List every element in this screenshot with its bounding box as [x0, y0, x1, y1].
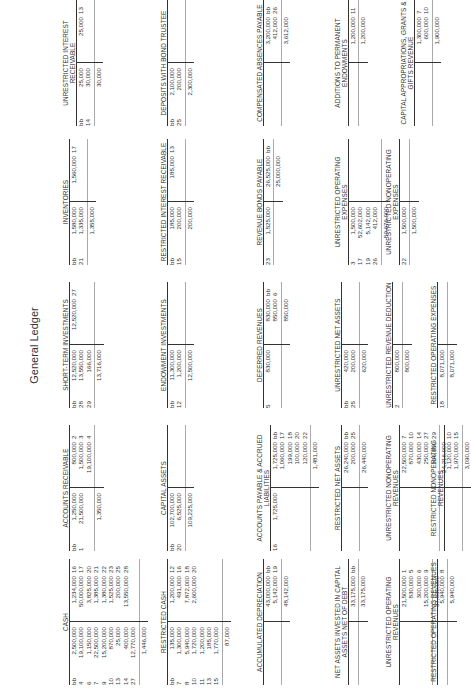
- account-name: CASH: [62, 559, 69, 685]
- spacer: [403, 396, 410, 408]
- spacer: [311, 539, 318, 551]
- debit-amount: [85, 488, 92, 539]
- entry-ref: 25: [349, 396, 356, 408]
- ledger-row: 1752,602,000: [356, 139, 363, 265]
- debit-amount: 19,100,000: [77, 622, 84, 673]
- t-account: RESTRICTED NET ASSETS26,240,000bb200,000…: [334, 425, 367, 551]
- ledger-row: 43,000,000bb: [264, 559, 271, 685]
- balance-row: 1,500,000: [409, 139, 417, 265]
- entry-ref: [356, 141, 363, 156]
- spacer: [463, 427, 470, 442]
- t-account: UNRESTRICTED NET ASSETSbb420,00025200,00…: [334, 282, 367, 408]
- account-name: RESTRICTED OPERATING EXPENSES: [430, 282, 437, 408]
- debit-balance: 1,350,000: [95, 488, 102, 539]
- account-name: ACCOUNTS RECEIVABLE: [62, 425, 69, 551]
- debit-amount: 52,602,000: [356, 202, 363, 253]
- entry-ref: [286, 539, 293, 551]
- ledger-row: bb102,700,000: [168, 425, 175, 551]
- debit-amount: 1,150,000: [85, 622, 92, 673]
- ledger-row: 2712,770,000: [129, 559, 136, 685]
- credit-amount: 15,200,000: [422, 576, 429, 622]
- entry-ref: 7: [175, 673, 182, 685]
- debit-amount: 185,000: [205, 622, 212, 673]
- entry-ref: 7: [400, 427, 407, 442]
- entry-ref: [129, 561, 136, 576]
- entry-ref: [271, 673, 278, 685]
- credit-amount: 50,000,000: [77, 576, 84, 622]
- debit-amount: 830,000: [264, 345, 271, 396]
- credit-amount: 1,234,000: [70, 576, 77, 622]
- entry-ref: 16: [271, 539, 278, 551]
- spacer: [186, 539, 193, 551]
- spacer: [186, 114, 193, 126]
- debit-amount: [422, 63, 429, 114]
- credit-amount: 800,000: [70, 442, 77, 488]
- entry-ref: [342, 284, 349, 299]
- spacer: [403, 284, 410, 299]
- debit-amount: 166,000: [85, 345, 92, 396]
- debit-amount: 12,520,000: [70, 345, 77, 396]
- ledger-row: 211,335,000: [77, 139, 84, 265]
- credit-amount: 13,550,000: [122, 576, 129, 622]
- credit-balance: [186, 156, 193, 202]
- credit-balance: [186, 299, 193, 345]
- entry-ref: 15: [175, 253, 182, 265]
- entry-ref: 10: [190, 673, 197, 685]
- entry-ref: [422, 673, 429, 685]
- spacer: [223, 673, 230, 685]
- t-account: DEPOSITS WITH BOND TRUSTEEbb2,100,000252…: [160, 0, 193, 126]
- credit-amount: 19,100,000: [85, 442, 92, 488]
- t-account: CASHbb2,500,0001,234,00016419,100,00050,…: [62, 559, 147, 685]
- entry-ref: [349, 114, 356, 126]
- balance-row: 48,142,000: [281, 559, 289, 685]
- entry-ref: 6: [415, 561, 422, 576]
- debit-amount: [342, 488, 349, 539]
- entry-ref: [400, 141, 407, 156]
- t-account: SHORT-TERM INVESTMENTSbb12,520,00012,520…: [62, 282, 103, 408]
- entry-ref: 6: [85, 673, 92, 685]
- spacer: [95, 114, 102, 126]
- entry-ref: 10: [107, 673, 114, 685]
- entry-ref: [168, 284, 175, 299]
- balance-row: 1,446,000: [139, 559, 147, 685]
- entry-ref: [349, 141, 356, 156]
- debit-amount: [271, 345, 278, 396]
- ledger-row: 1,120,00010: [445, 425, 452, 551]
- ledger-row: bb12,520,00012,520,00027: [70, 282, 77, 408]
- t-account-divider: [400, 201, 419, 202]
- debit-amount: 1,725,000: [271, 488, 278, 539]
- balance-row: 26,440,000: [359, 425, 367, 551]
- ledger-row: 3,200,000bb: [264, 0, 271, 126]
- ledger-row: bb135,0001,200,00012: [168, 559, 175, 685]
- debit-balance: [359, 622, 366, 673]
- debit-amount: 25,000: [77, 63, 84, 114]
- balance-row: 800,000: [402, 282, 410, 408]
- ledger-row: 121,200,000: [175, 282, 182, 408]
- entry-ref: 13: [205, 673, 212, 685]
- debit-amount: 11,300,000: [168, 345, 175, 396]
- t-account: DEFERRED REVENUES5830,000830,000bb850,00…: [256, 282, 289, 408]
- credit-balance: [403, 299, 410, 345]
- account-name: ENDOWMENT INVESTMENTS: [160, 282, 167, 408]
- entry-ref: [278, 539, 285, 551]
- entry-ref: bb: [349, 561, 356, 576]
- debit-amount: 12,770,000: [129, 622, 136, 673]
- ledger-row: 15,200,0009: [422, 559, 429, 685]
- debit-amount: 8,071,000: [438, 345, 445, 396]
- ledger-row: 15200,000: [175, 139, 182, 265]
- balance-row: 850,000: [281, 282, 289, 408]
- credit-balance: [223, 576, 230, 622]
- credit-amount: 250,000: [422, 442, 429, 488]
- debit-amount: [415, 622, 422, 673]
- entry-ref: 25: [175, 114, 182, 126]
- credit-amount: 1,525,000: [107, 576, 114, 622]
- entry-ref: 1: [400, 561, 407, 576]
- entry-ref: [364, 141, 371, 156]
- debit-amount: [293, 488, 300, 539]
- credit-balance: 1,200,000: [359, 17, 366, 63]
- account-name: UNRESTRICTED OPERATING EXPENSES: [334, 139, 348, 265]
- entry-ref: 8: [183, 673, 190, 685]
- debit-amount: [278, 488, 285, 539]
- entry-ref: bb: [70, 673, 77, 685]
- debit-amount: [400, 622, 407, 673]
